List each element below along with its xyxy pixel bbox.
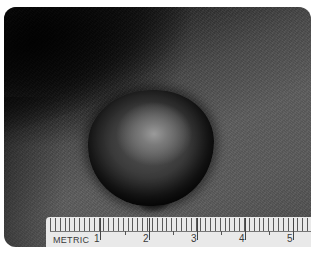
clinical-photo — [4, 7, 311, 247]
ruler-unit-label: METRIC — [53, 235, 89, 245]
ruler-half-tick — [125, 231, 126, 235]
ruler-major-tick — [293, 218, 294, 240]
ruler-half-tick — [221, 231, 222, 235]
ruler-major-tick — [245, 218, 246, 240]
ruler-mark-1: 1 — [94, 234, 100, 244]
ruler-mark-2: 2 — [143, 234, 149, 244]
ruler-major-tick — [149, 218, 150, 240]
ruler-major-tick — [100, 218, 101, 240]
ruler-baseline — [50, 231, 311, 232]
ruler-major-tick — [197, 218, 198, 240]
metric-ruler: METRIC 1 2 3 4 5 — [46, 217, 311, 247]
ruler-half-tick — [269, 231, 270, 235]
ruler-half-tick — [173, 231, 174, 235]
ruler-mark-3: 3 — [191, 234, 197, 244]
ruler-minor-ticks — [50, 218, 311, 231]
ruler-mark-5: 5 — [287, 234, 293, 244]
ruler-mark-4: 4 — [239, 234, 245, 244]
